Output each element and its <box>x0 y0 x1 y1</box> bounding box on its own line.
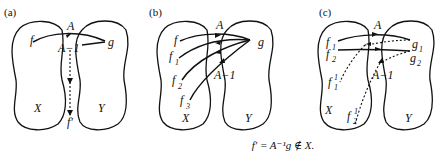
map-a-inverse-label: A−1 <box>213 68 235 82</box>
svg-text:1: 1 <box>334 83 338 92</box>
map-a-label: A <box>373 18 382 32</box>
svg-text:1: 1 <box>419 45 423 54</box>
svg-text:2: 2 <box>332 55 336 64</box>
panel-label-c: (c) <box>319 6 332 19</box>
set-y-label-b: Y <box>245 111 253 125</box>
point-f: f <box>174 33 179 47</box>
svg-text:3: 3 <box>185 102 190 111</box>
set-y-label-c: Y <box>405 111 413 125</box>
point-f1-prime: f <box>328 75 333 89</box>
svg-text:2: 2 <box>417 59 421 68</box>
set-x-label-a: X <box>33 101 42 115</box>
svg-text:1: 1 <box>175 58 179 67</box>
svg-text:2: 2 <box>178 82 182 91</box>
svg-text:1: 1 <box>332 43 336 52</box>
svg-text:1: 1 <box>354 107 358 116</box>
arrow-a-inverse-stub <box>82 42 105 45</box>
panel-label-a: (a) <box>4 6 17 19</box>
set-y-label-a: Y <box>98 101 106 115</box>
map-a-inverse-label: A−1 <box>57 41 79 55</box>
svg-text:2: 2 <box>353 117 357 126</box>
point-g1: g <box>412 37 418 51</box>
panel-c: (c) f 1 f 2 f 1 1 f 2 1 g 1 g 2 A A−1 X … <box>318 6 434 130</box>
panel-b: (b) f f 1 f 2 f 3 g A A−1 X Y <box>149 6 273 130</box>
point-g: g <box>258 35 264 49</box>
map-a-inverse-label: A−1 <box>371 68 393 82</box>
point-f2-prime: f <box>347 109 352 123</box>
point-f-prime: f' <box>67 115 73 129</box>
point-f3: f <box>180 93 185 107</box>
point-f2: f <box>172 73 177 87</box>
set-x-label-b: X <box>181 111 190 125</box>
diagram-canvas: (a) f g A A−1 f' X Y (b) f f 1 f 2 f 3 <box>0 0 436 140</box>
svg-text:1: 1 <box>334 73 338 82</box>
map-a-label: A <box>66 19 75 33</box>
point-f: f <box>30 33 35 47</box>
panel-a: (a) f g A A−1 f' X Y <box>4 6 128 130</box>
point-g2: g <box>410 51 416 65</box>
point-g: g <box>108 35 114 49</box>
point-f2: f <box>326 47 331 61</box>
map-a-label: A <box>215 18 224 32</box>
caption: f′ = A⁻¹g ∉ X. <box>0 139 436 152</box>
set-x-label-c: X <box>324 103 333 117</box>
panel-label-b: (b) <box>149 6 162 19</box>
point-f1: f <box>169 49 174 63</box>
